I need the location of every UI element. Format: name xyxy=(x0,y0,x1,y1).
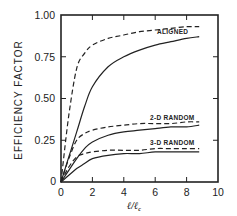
curve-aligned-solid xyxy=(61,37,199,182)
x-axis-title-main: ℓ/ℓ xyxy=(127,200,138,211)
curve-aligned-dashed xyxy=(61,27,199,182)
label-aligned: ALIGNED xyxy=(157,28,188,35)
x-tick-label-4: 4 xyxy=(121,186,127,198)
plot-frame xyxy=(61,15,218,182)
y-tick-label-0: 0 xyxy=(50,175,56,187)
data-curves xyxy=(61,27,199,182)
x-tick-label-0: 0 xyxy=(58,186,64,198)
y-axis-title: EFFICIENCY FACTOR xyxy=(13,40,24,159)
axis-ticks xyxy=(61,15,218,182)
label-3d-random: 3-D RANDOM xyxy=(150,139,195,146)
y-tick-label-0.50: 0.50 xyxy=(35,92,56,104)
x-tick-label-10: 10 xyxy=(212,186,224,198)
curve-3-d-random-solid xyxy=(61,152,199,182)
x-axis-title-subscript: c xyxy=(138,206,141,212)
x-tick-label-6: 6 xyxy=(152,186,158,198)
label-2d-random: 2-D RANDOM xyxy=(150,114,195,121)
y-tick-label-0.25: 0.25 xyxy=(35,134,56,146)
x-tick-label-8: 8 xyxy=(184,186,190,198)
x-tick-label-2: 2 xyxy=(89,186,95,198)
x-axis-title: ℓ/ℓc xyxy=(127,200,141,212)
y-tick-label-1.00: 1.00 xyxy=(35,9,56,21)
efficiency-factor-chart: 1.00 0.75 0.50 0.25 0 0 2 4 6 8 10 EFFIC… xyxy=(0,0,237,216)
y-tick-label-0.75: 0.75 xyxy=(35,51,56,63)
plot-border xyxy=(61,15,218,182)
